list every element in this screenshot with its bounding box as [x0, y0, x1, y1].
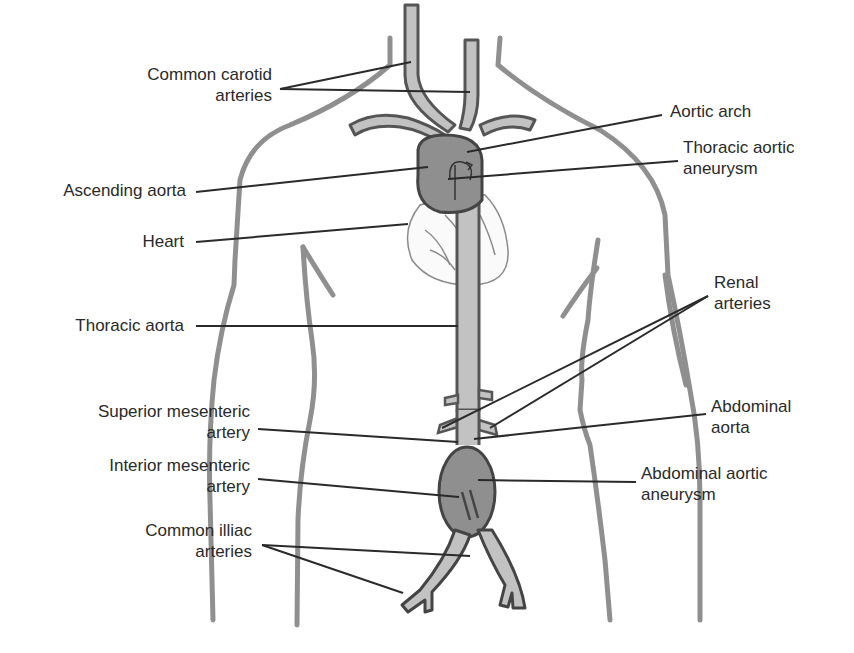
- label-text: Thoracic aortic: [683, 137, 794, 158]
- label-common-iliac-arteries: Common illiac arteries: [60, 520, 252, 562]
- label-text: Superior mesenteric: [40, 401, 250, 422]
- thoracic-aortic-aneurysm-shape: [418, 135, 482, 213]
- label-text: Ascending aorta: [20, 180, 186, 201]
- abdominal-aortic-aneurysm-shape: [439, 447, 495, 537]
- label-text: artery: [40, 422, 250, 443]
- label-thoracic-aortic-aneurysm: Thoracic aortic aneurysm: [683, 137, 794, 179]
- label-text: Heart: [20, 231, 184, 252]
- label-text: aneurysm: [683, 158, 794, 179]
- label-text: aneurysm: [641, 484, 768, 505]
- label-text: arteries: [90, 85, 272, 106]
- label-text: Abdominal aortic: [641, 463, 768, 484]
- label-thoracic-aorta: Thoracic aorta: [20, 315, 184, 336]
- label-text: Thoracic aorta: [20, 315, 184, 336]
- label-common-carotid-arteries: Common carotid arteries: [90, 64, 272, 106]
- label-text: arteries: [714, 293, 771, 314]
- label-text: arteries: [60, 541, 252, 562]
- label-text: Renal: [714, 272, 771, 293]
- label-interior-mesenteric-artery: Interior mesenteric artery: [40, 455, 250, 497]
- label-aortic-arch: Aortic arch: [670, 101, 751, 122]
- label-ascending-aorta: Ascending aorta: [20, 180, 186, 201]
- label-abdominal-aorta: Abdominal aorta: [711, 396, 791, 438]
- label-text: aorta: [711, 417, 791, 438]
- label-abdominal-aortic-aneurysm: Abdominal aortic aneurysm: [641, 463, 768, 505]
- label-renal-arteries: Renal arteries: [714, 272, 771, 314]
- label-text: artery: [40, 476, 250, 497]
- label-text: Aortic arch: [670, 101, 751, 122]
- label-text: Common illiac: [60, 520, 252, 541]
- iliac-arteries: [402, 530, 525, 612]
- label-text: Interior mesenteric: [40, 455, 250, 476]
- label-superior-mesenteric-artery: Superior mesenteric artery: [40, 401, 250, 443]
- label-text: Common carotid: [90, 64, 272, 85]
- label-text: Abdominal: [711, 396, 791, 417]
- label-heart: Heart: [20, 231, 184, 252]
